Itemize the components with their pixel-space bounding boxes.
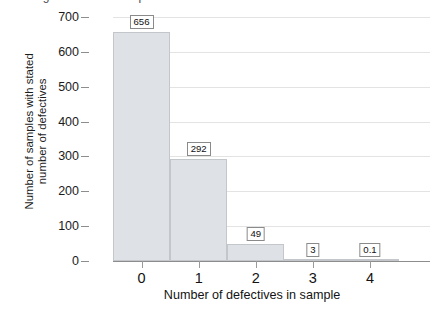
x-tick-label-4: 4 bbox=[366, 270, 374, 286]
y-tick-label: 700 bbox=[58, 10, 79, 24]
y-tick-mark bbox=[81, 52, 89, 53]
y-tick-label: 200 bbox=[58, 184, 79, 198]
y-tick-mark bbox=[81, 87, 89, 88]
bar-chart-figure: Number of samples with stated number of … bbox=[0, 0, 430, 315]
data-label-2: 49 bbox=[246, 227, 265, 241]
data-label-4: 0.1 bbox=[359, 243, 380, 257]
y-tick-mark bbox=[81, 191, 89, 192]
y-tick-label: 400 bbox=[58, 115, 79, 129]
x-tick-label-1: 1 bbox=[195, 270, 203, 286]
y-tick-mark bbox=[81, 226, 89, 227]
y-tick-label: 0 bbox=[72, 254, 79, 268]
x-axis-title: Number of defectives in sample bbox=[0, 288, 430, 302]
data-label-3: 3 bbox=[306, 243, 319, 257]
y-tick-mark bbox=[81, 156, 89, 157]
x-tick-mark bbox=[370, 261, 371, 268]
y-tick-label: 100 bbox=[58, 219, 79, 233]
y-tick-label: 300 bbox=[58, 149, 79, 163]
x-tick-label-3: 3 bbox=[309, 270, 317, 286]
y-tick-mark bbox=[81, 122, 89, 123]
x-tick-label-2: 2 bbox=[252, 270, 260, 286]
x-axis-title-label: Number of defectives in sample bbox=[164, 288, 340, 302]
y-tick-mark bbox=[81, 261, 89, 262]
x-tick-mark bbox=[313, 261, 314, 268]
x-tick-mark bbox=[256, 261, 257, 268]
y-axis-ticks: 0100200300400500600700 bbox=[0, 0, 113, 261]
x-tick-mark bbox=[142, 261, 143, 268]
x-tick-mark bbox=[199, 261, 200, 268]
x-tick-label-0: 0 bbox=[138, 270, 146, 286]
data-label-layer: 6562924930.1 bbox=[113, 17, 430, 261]
data-label-0: 656 bbox=[130, 15, 154, 29]
y-tick-label: 600 bbox=[58, 45, 79, 59]
data-label-1: 292 bbox=[187, 142, 211, 156]
y-tick-label: 500 bbox=[58, 80, 79, 94]
y-tick-mark bbox=[81, 17, 89, 18]
